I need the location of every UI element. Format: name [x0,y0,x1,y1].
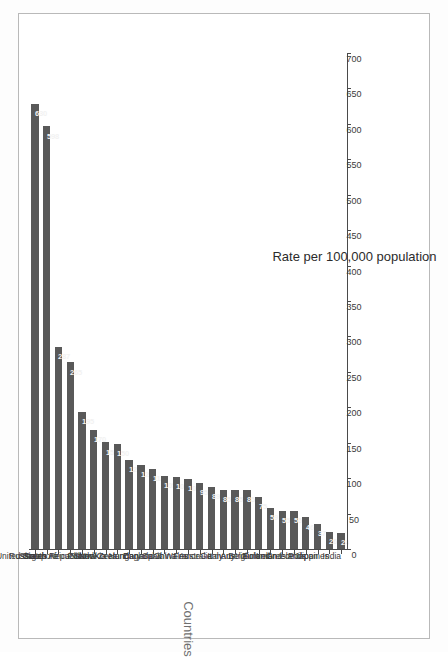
bar-item: 152Slovakia [102,54,109,550]
value-tick-label: 550 [346,160,361,170]
bar-item: 75Belgium [255,54,262,550]
category-tick [282,550,283,554]
bar-chart: Countries 630Russia598United States287Si… [21,16,427,636]
category-tick [329,550,330,554]
value-tick-label: 50 [349,515,359,525]
bar [90,430,97,550]
value-tick-label: 600 [346,125,361,135]
category-axis-line [29,549,347,550]
category-tick [200,550,201,554]
category-tick [188,550,189,554]
bar [43,126,50,550]
bar-item: 115Canada [149,54,156,550]
category-tick [223,550,224,554]
bar [31,104,38,550]
bar-value-label: 55 [282,517,290,525]
bar-value-label: 85 [223,496,231,504]
bar-value-label: 85 [247,496,255,504]
value-tick-label: 250 [346,373,361,383]
bar-item: 150South Korea [114,54,121,550]
category-tick [141,550,142,554]
value-tick-label: 200 [346,408,361,418]
bar-value-label: 95 [200,489,208,497]
category-tick [318,550,319,554]
value-axis-title: Rate per 100,000 population [107,249,448,264]
value-tick-label: 0 [351,550,356,560]
bar-item: 100England & Wales [184,54,191,550]
bar-value-label: 85 [235,496,243,504]
category-tick [94,550,95,554]
bar-item: 55Ireland [279,54,286,550]
bar-item: 55Greece [290,54,297,550]
bar [78,412,85,550]
bar-item: 120Hungary [137,54,144,550]
bar-item: 85Austria [243,54,250,550]
plot-area: 630Russia598United States287Singapore265… [29,54,347,550]
bar-value-label: 37 [318,530,326,538]
category-tick [294,550,295,554]
bar-item: 59Finland [267,54,274,550]
bar [102,442,109,550]
category-axis-title-text: Countries [181,601,196,657]
category-tick [235,550,236,554]
value-axis-line: 0501001502002503003504004505005506006507… [347,54,348,550]
figure-frame: Countries 630Russia598United States287Si… [18,13,430,639]
bar-value-label: 55 [294,517,302,525]
value-tick-label: 100 [346,479,361,489]
bar-item: 105Spain [161,54,168,550]
bar-item: 89Australia [208,54,215,550]
bar-item: 287Singapore [55,54,62,550]
category-tick [153,550,154,554]
category-tick [176,550,177,554]
bar [67,362,74,550]
value-tick-label: 400 [346,267,361,277]
category-tick [164,550,165,554]
bar-item: 103China [173,54,180,550]
category-tick [306,550,307,554]
category-tick [259,550,260,554]
bar-item: 95France [196,54,203,550]
category-tick [129,550,130,554]
category-tick [247,550,248,554]
bar-item: 24India [337,54,344,550]
bar [55,347,62,550]
category-tick [212,550,213,554]
bar-item: 85Germany [231,54,238,550]
bar-value-label: 75 [259,503,267,511]
category-tick [117,550,118,554]
value-tick-label: 700 [346,54,361,64]
bar-item: 127New Zealand [125,54,132,550]
bar-item: 37Japan [314,54,321,550]
rotated-plot-wrapper: Countries 630Russia598United States287Si… [21,16,427,636]
value-tick [347,549,351,550]
category-tick [270,550,271,554]
bar-item: 85Italy [220,54,227,550]
bar [114,444,121,550]
category-tick [106,550,107,554]
category-tick [341,550,342,554]
category-axis-title: Countries [29,622,347,636]
bar-item: 46Solomon Islands [302,54,309,550]
bar-item: 170Poland [90,54,97,550]
category-tick-label: India [323,551,341,561]
bar-value-label: 46 [306,524,314,532]
bar-value-label: 59 [270,515,278,523]
category-tick [70,550,71,554]
bar-item: 265South Africa [67,54,74,550]
bar-item: 598United States [43,54,50,550]
category-tick [58,550,59,554]
bar-item: 26Philippines [326,54,333,550]
category-tick [35,550,36,554]
bar-value-label: 26 [329,538,337,546]
category-tick [82,550,83,554]
value-tick-label: 350 [346,302,361,312]
value-tick-label: 300 [346,337,361,347]
value-tick-label: 150 [346,444,361,454]
value-tick-label: 450 [346,231,361,241]
bar-value-label: 89 [212,493,220,501]
bar-item: 195Czech Republic [78,54,85,550]
category-tick [47,550,48,554]
value-tick-label: 650 [346,89,361,99]
value-tick-label: 500 [346,196,361,206]
